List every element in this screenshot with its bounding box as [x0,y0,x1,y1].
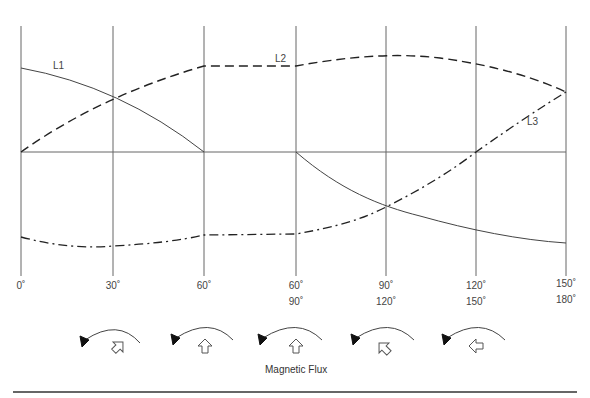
diagram-caption: Magnetic Flux [265,364,327,375]
series-label-l3: L3 [527,116,538,127]
arc-arrowhead-icon [258,334,267,345]
angle-label-150: 150˚ [556,278,576,289]
diagram-canvas [0,0,590,398]
flux-arrow-4 [351,327,414,357]
angle-label-120: 120˚ [466,280,486,291]
flux-arrow-group [80,327,505,357]
rotation-arc-icon [176,327,233,340]
angle-label-30: 30˚ [106,280,120,291]
arc-arrowhead-icon [351,334,360,345]
angle-label-180: 180˚ [556,294,576,305]
flux-arrow-2 [171,327,233,353]
flux-direction-arrow-icon [469,339,483,353]
rotation-arc-icon [263,327,322,340]
vertical-grid-lines [21,26,566,276]
flux-direction-arrow-icon [109,337,128,356]
angle-label-60b: 60˚ [289,280,303,291]
angle-label-90b: 90˚ [289,296,303,307]
flux-direction-arrow-icon [289,339,303,353]
angle-label-0: 0˚ [17,280,26,291]
flux-arrow-5 [442,327,505,353]
rotation-arc-icon [85,330,140,343]
rotation-arc-icon [447,327,505,340]
flux-arrow-1 [80,330,140,356]
curve-l2 [21,56,566,152]
curve-l3 [21,92,566,247]
series-label-l1: L1 [53,60,64,71]
flux-direction-arrow-icon [374,338,394,358]
angle-label-150b: 150˚ [466,296,486,307]
rotation-arc-icon [356,327,414,340]
curve-l1-segment-2 [296,152,566,243]
arc-arrowhead-icon [171,334,180,345]
flux-direction-arrow-icon [198,339,212,353]
arc-arrowhead-icon [442,334,451,345]
angle-label-90: 90˚ [379,280,393,291]
arc-arrowhead-icon [80,336,89,347]
flux-arrow-3 [258,327,322,353]
angle-label-120b: 120˚ [376,296,396,307]
angle-label-60: 60˚ [197,280,211,291]
series-label-l2: L2 [275,53,286,64]
